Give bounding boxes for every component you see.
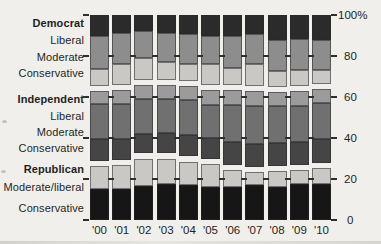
bar-01 <box>112 15 131 220</box>
gridline-stub-40 <box>130 137 136 139</box>
segment-democrat-moderate <box>90 36 109 70</box>
segment-democrat-moderate <box>112 33 131 64</box>
segment-democrat-conservative <box>134 58 153 80</box>
gridline-stub-60 <box>130 96 136 98</box>
segment-republican-moderate-liberal <box>134 159 153 187</box>
gridline-stub-40 <box>197 137 203 139</box>
segment-republican-moderate-liberal <box>157 159 176 185</box>
segment-independent-moderate <box>112 104 131 139</box>
segment-independent-moderate <box>312 103 331 139</box>
gridline-stub-40 <box>83 137 89 139</box>
gridline-stub-0 <box>331 219 337 221</box>
segment-democrat-moderate <box>134 31 153 58</box>
y-tick-label-60: 60 <box>344 90 357 104</box>
gridline-stub-80 <box>130 55 136 57</box>
row-label-independent-conservative: Conservative <box>0 140 84 156</box>
y-tick-label-40: 40 <box>344 131 357 145</box>
segment-democrat-conservative <box>157 62 176 79</box>
segment-independent-liberal <box>245 91 264 106</box>
gridline-stub-80 <box>241 55 247 57</box>
segment-independent-moderate <box>179 100 198 135</box>
segment-democrat-liberal <box>112 15 131 33</box>
segment-republican-moderate-liberal <box>290 170 309 184</box>
gridline-stub-40 <box>308 137 314 139</box>
segment-republican-moderate-liberal <box>268 171 287 187</box>
segment-democrat-moderate <box>223 36 242 69</box>
gridline-stub-80 <box>197 55 203 57</box>
segment-independent-liberal <box>290 91 309 106</box>
bar-08 <box>268 15 287 220</box>
segment-independent-moderate <box>134 99 153 134</box>
gridline-stub-20 <box>241 178 247 180</box>
gridline-stub-80 <box>308 55 314 57</box>
segment-democrat-conservative <box>223 68 242 84</box>
segment-democrat-liberal <box>179 15 198 34</box>
gridline-stub-60 <box>174 96 180 98</box>
segment-independent-conservative <box>134 134 153 153</box>
gridline-stub-20 <box>152 178 158 180</box>
segment-republican-conservative <box>179 185 198 220</box>
gridline-stub-80 <box>285 55 291 57</box>
segment-independent-liberal <box>223 90 242 105</box>
gridline-stub-20 <box>219 178 225 180</box>
gridline-stub-60 <box>108 96 114 98</box>
gridline-stub-60 <box>331 96 337 98</box>
row-label-democrat-liberal: Liberal <box>0 32 84 48</box>
segment-republican-moderate-liberal <box>179 162 198 186</box>
gridline-stub-80 <box>108 55 114 57</box>
segment-republican-conservative <box>312 184 331 220</box>
segment-independent-liberal <box>179 86 198 100</box>
segment-independent-liberal <box>134 85 153 99</box>
segment-democrat-moderate <box>312 40 331 71</box>
y-tick-label-0: 0 <box>347 213 353 227</box>
segment-independent-liberal <box>90 91 109 104</box>
bar-02 <box>134 15 153 220</box>
segment-democrat-liberal <box>134 15 153 31</box>
bar-09 <box>290 15 309 220</box>
gridline-stub-80 <box>331 55 337 57</box>
segment-democrat-moderate <box>290 39 309 71</box>
gridline-stub-40 <box>241 137 247 139</box>
y-tick-label-100: 100% <box>338 8 367 22</box>
segment-independent-liberal <box>268 92 287 106</box>
gridline-stub-100 <box>83 14 89 16</box>
gridline-stub-20 <box>83 178 89 180</box>
gridline-stub-60 <box>241 96 247 98</box>
segment-independent-moderate <box>245 106 264 144</box>
segment-democrat-conservative <box>179 64 198 80</box>
bar-00 <box>90 15 109 220</box>
gridline-stub-60 <box>308 96 314 98</box>
gridline-stub-20 <box>174 178 180 180</box>
segment-democrat-conservative <box>112 64 131 85</box>
segment-democrat-moderate <box>157 33 176 62</box>
bar-04 <box>179 15 198 220</box>
gridline-stub-40 <box>108 137 114 139</box>
segment-independent-moderate <box>201 105 220 138</box>
segment-independent-conservative <box>179 135 198 157</box>
segment-democrat-conservative <box>312 70 331 83</box>
x-tick-label-10: '10 <box>309 223 335 237</box>
bar-03 <box>157 15 176 220</box>
segment-independent-conservative <box>90 139 109 161</box>
gridline-stub-100 <box>331 14 337 16</box>
segment-democrat-liberal <box>201 15 220 36</box>
segment-independent-conservative <box>157 133 176 154</box>
gridline-stub-60 <box>263 96 269 98</box>
segment-republican-conservative <box>268 187 287 220</box>
row-label-independent: Independent <box>0 91 84 107</box>
segment-democrat-moderate <box>268 40 287 72</box>
gridline-stub-60 <box>285 96 291 98</box>
segment-republican-conservative <box>223 187 242 220</box>
gridline-stub-60 <box>152 96 158 98</box>
row-label-democrat-conservative: Conservative <box>0 65 84 81</box>
segment-democrat-conservative <box>90 69 109 85</box>
gridline-stub-60 <box>197 96 203 98</box>
row-label-democrat-moderate: Moderate <box>0 49 84 65</box>
gridline-stub-20 <box>263 178 269 180</box>
segment-democrat-moderate <box>245 34 264 64</box>
segment-democrat-liberal <box>90 15 109 36</box>
segment-independent-conservative <box>268 143 287 166</box>
segment-republican-conservative <box>90 189 109 220</box>
row-label-republican-conservative: Conservative <box>0 200 84 216</box>
gridline-stub-80 <box>263 55 269 57</box>
